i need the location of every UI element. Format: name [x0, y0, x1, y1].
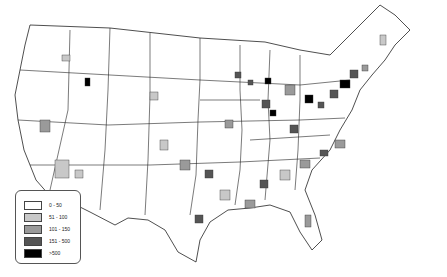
legend-item: 101 - 150 [24, 225, 70, 233]
legend-swatch [24, 237, 42, 246]
legend-swatch [24, 213, 42, 222]
legend-swatch [24, 201, 42, 210]
legend-label: 151 - 500 [49, 238, 70, 244]
legend-item: 0 - 50 [24, 201, 62, 209]
legend-label: >500 [49, 250, 60, 256]
legend-item: 51 - 100 [24, 213, 67, 221]
legend-label: 101 - 150 [49, 226, 70, 232]
map-legend: 0 - 50 51 - 100 101 - 150 151 - 500 >500 [15, 190, 81, 264]
legend-swatch [24, 249, 42, 258]
legend-label: 0 - 50 [49, 202, 62, 208]
legend-item: 151 - 500 [24, 237, 70, 245]
legend-label: 51 - 100 [49, 214, 67, 220]
legend-item: >500 [24, 249, 60, 257]
legend-swatch [24, 225, 42, 234]
